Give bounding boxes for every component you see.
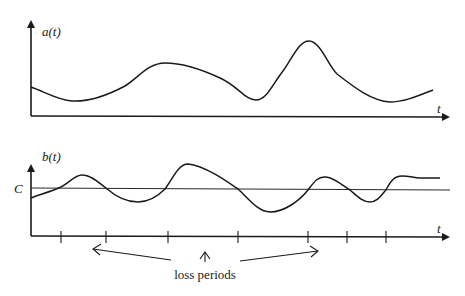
loss-periods-annotation: loss periods [93,244,318,282]
left-pointer-line [93,249,171,260]
threshold-label: C [14,181,23,196]
top-y-label: a(t) [42,24,61,39]
right-pointer-line [240,251,318,261]
top-x-axis [31,116,446,117]
bottom-y-label: b(t) [42,149,61,164]
top-x-label: t [437,101,441,116]
bottom-x-label: t [437,221,441,236]
diagram-canvas: a(t) t b(t) C t loss periods [0,0,465,296]
a-t-curve [31,41,433,102]
annotation-text: loss periods [174,267,236,282]
top-plot: a(t) t [31,24,446,117]
bottom-plot: b(t) C t [14,149,450,243]
